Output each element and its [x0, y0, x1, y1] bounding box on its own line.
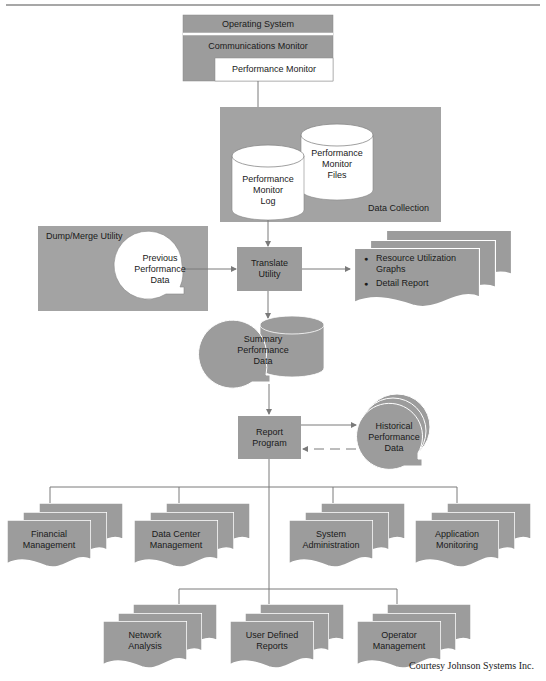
- report-application-line-1: Application: [415, 529, 499, 540]
- summary-data-label: Summary Performance Data: [232, 334, 294, 367]
- performance-monitor-label: Performance Monitor: [215, 64, 333, 75]
- historical-line-3: Data: [360, 443, 428, 454]
- report-financial-label: Financial Management: [7, 529, 91, 551]
- files-db-line-1: Performance: [301, 148, 373, 159]
- operating-system-label: Operating System: [183, 19, 333, 30]
- summary-line-1: Summary: [232, 334, 294, 345]
- files-db-line-3: Files: [301, 170, 373, 181]
- communications-monitor-label: Communications Monitor: [183, 41, 333, 52]
- report-program-line-2: Program: [238, 438, 301, 449]
- report-data-center-line-2: Management: [134, 540, 218, 551]
- output-item-resource-graphs: Resource Utilization Graphs: [364, 253, 486, 275]
- translate-line-1: Translate: [237, 258, 302, 269]
- report-user-defined-line-1: User Defined: [230, 630, 314, 641]
- report-network-line-2: Analysis: [103, 641, 187, 652]
- log-db-label: Performance Monitor Log: [232, 174, 304, 207]
- report-system-admin-label: System Administration: [289, 529, 373, 551]
- dump-merge-label: Dump/Merge Utility: [46, 231, 123, 242]
- report-system-admin-line-2: Administration: [289, 540, 373, 551]
- report-network-label: Network Analysis: [103, 630, 187, 652]
- historical-data-label: Historical Performance Data: [360, 421, 428, 454]
- files-db-line-2: Monitor: [301, 159, 373, 170]
- report-data-center-label: Data Center Management: [134, 529, 218, 551]
- report-financial-line-2: Management: [7, 540, 91, 551]
- credit-line: Courtesy Johnson Systems Inc.: [409, 660, 534, 671]
- historical-line-1: Historical: [360, 421, 428, 432]
- summary-line-3: Data: [232, 356, 294, 367]
- previous-data-label: Previous Performance Data: [134, 253, 186, 286]
- previous-data-line-2: Performance: [134, 264, 186, 275]
- log-db-line-1: Performance: [232, 174, 304, 185]
- report-data-center-line-1: Data Center: [134, 529, 218, 540]
- previous-data-line-1: Previous: [134, 253, 186, 264]
- historical-line-2: Performance: [360, 432, 428, 443]
- report-operator-label: Operator Management: [357, 630, 441, 652]
- report-program-line-1: Report: [238, 427, 301, 438]
- report-operator-line-1: Operator: [357, 630, 441, 641]
- report-application-label: Application Monitoring: [415, 529, 499, 551]
- summary-line-2: Performance: [232, 345, 294, 356]
- report-system-admin-line-1: System: [289, 529, 373, 540]
- output-item-detail-report: Detail Report: [364, 278, 486, 289]
- report-operator-line-2: Management: [357, 641, 441, 652]
- outputs-list: Resource Utilization Graphs Detail Repor…: [364, 253, 486, 289]
- files-db-label: Performance Monitor Files: [301, 148, 373, 181]
- report-user-defined-line-2: Reports: [230, 641, 314, 652]
- report-program-label: Report Program: [238, 427, 301, 449]
- report-application-line-2: Monitoring: [415, 540, 499, 551]
- translate-line-2: Utility: [237, 269, 302, 280]
- data-collection-label: Data Collection: [368, 203, 429, 214]
- report-user-defined-label: User Defined Reports: [230, 630, 314, 652]
- log-db-line-2: Monitor: [232, 185, 304, 196]
- report-network-line-1: Network: [103, 630, 187, 641]
- previous-data-line-3: Data: [134, 275, 186, 286]
- report-financial-line-1: Financial: [7, 529, 91, 540]
- translate-utility-label: Translate Utility: [237, 258, 302, 280]
- log-db-line-3: Log: [232, 196, 304, 207]
